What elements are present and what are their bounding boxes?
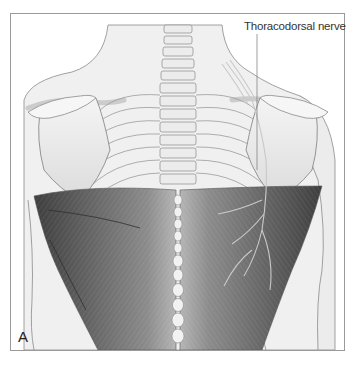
thoracodorsal-nerve-label: Thoracodorsal nerve [244, 20, 346, 32]
panel-label: A [18, 328, 28, 345]
anatomy-illustration [0, 0, 357, 368]
